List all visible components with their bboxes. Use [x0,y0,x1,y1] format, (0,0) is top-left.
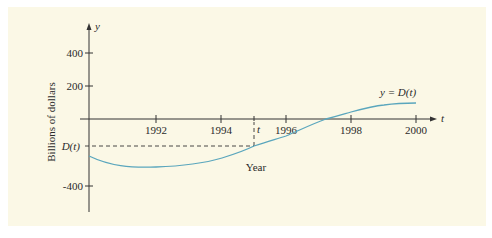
t-tick-label-1992: 1992 [145,124,167,136]
d-of-t-curve [89,103,416,167]
t-tick-label-1996: 1996 [275,124,298,136]
t-marker-label: t [257,123,261,135]
x-axis-title: Year [246,161,267,173]
y-axis-symbol: y [94,20,100,32]
t-axis-symbol: t [441,112,445,124]
t-tick-label-2000: 2000 [405,124,428,136]
curve-label: y = D(t) [379,86,416,99]
t-tick-label-1994: 1994 [210,124,233,136]
y-axis-title: Billions of dollars [45,82,57,161]
t-tick-label-1998: 1998 [340,124,363,136]
chart-svg: y t 400 200 -400 Billions of dollars 199… [0,0,492,238]
y-axis-arrow-icon [87,23,92,30]
y-tick-label-neg400: -400 [63,180,84,192]
dt-label: D(t) [61,140,81,153]
y-tick-label-400: 400 [67,47,84,59]
y-tick-label-200: 200 [67,80,84,92]
t-axis-arrow-icon [430,117,437,122]
